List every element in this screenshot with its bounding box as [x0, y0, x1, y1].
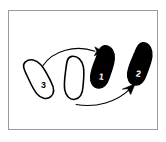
- diagram-canvas: 3 1 2: [9, 11, 157, 129]
- shape-outline-left: 3: [17, 55, 60, 102]
- arrow-lower: [76, 90, 129, 106]
- figure-panel: 3 1 2: [8, 10, 158, 130]
- arrow-lower-head-icon: [122, 84, 135, 95]
- shape-outline-left-body: [17, 55, 60, 102]
- shape-outline-middle-body: [61, 55, 86, 100]
- shape-outline-left-label: 3: [41, 80, 46, 90]
- arrow-lower-curve: [76, 90, 129, 106]
- shape-solid-fourth: 2: [126, 41, 154, 87]
- shape-outline-middle: [61, 55, 86, 100]
- shape-solid-fourth-body: [126, 41, 154, 87]
- figure-root: 3 1 2: [0, 0, 166, 142]
